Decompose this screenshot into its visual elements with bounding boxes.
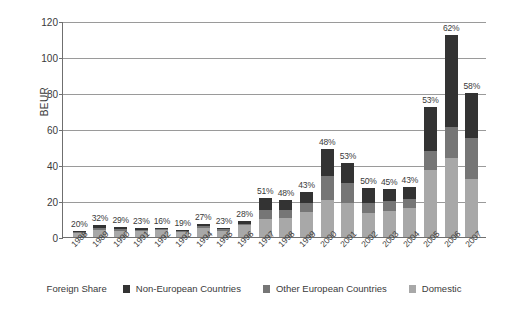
bar-slot: 28% xyxy=(234,22,255,237)
bar-slot: 48% xyxy=(276,22,297,237)
legend-swatch xyxy=(263,285,270,293)
bar-value-label: 32% xyxy=(92,213,108,223)
x-label-slot: 1996 xyxy=(234,240,255,282)
bar-value-label: 53% xyxy=(340,151,356,161)
bar-value-label: 43% xyxy=(402,175,418,185)
stacked-bar[interactable] xyxy=(341,163,354,237)
bar-slot: 16% xyxy=(152,22,173,237)
x-label-slot: 1994 xyxy=(192,240,213,282)
y-axis-tick-label: 20 xyxy=(47,197,58,208)
bar-segment-non-european xyxy=(259,198,272,210)
x-label-slot: 1998 xyxy=(275,240,296,282)
bar-value-label: 48% xyxy=(319,137,335,147)
x-label-slot: 1989 xyxy=(89,240,110,282)
x-axis-tick-labels: 1988198919901991199219931994199519961997… xyxy=(62,240,486,282)
x-label-slot: 2004 xyxy=(399,240,420,282)
legend-lead-label: Foreign Share xyxy=(47,283,107,294)
bar-segment-non-european xyxy=(321,149,334,176)
bar-slot: 53% xyxy=(338,22,359,237)
x-label-slot: 1991 xyxy=(130,240,151,282)
bar-value-label: 48% xyxy=(278,188,294,198)
bar-segment-other-european xyxy=(300,203,313,212)
bar-slot: 62% xyxy=(441,22,462,237)
bar-segment-other-european xyxy=(403,199,416,208)
bar-slot: 23% xyxy=(131,22,152,237)
bar-segment-other-european xyxy=(424,151,437,171)
bar-segment-other-european xyxy=(321,176,334,200)
x-label-slot: 1992 xyxy=(151,240,172,282)
legend-label: Other European Countries xyxy=(276,283,387,294)
x-label-slot: 2000 xyxy=(316,240,337,282)
y-axis-tick-label: 0 xyxy=(52,233,58,244)
x-label-slot: 2007 xyxy=(461,240,482,282)
bar-value-label: 28% xyxy=(236,209,252,219)
bar-segment-non-european xyxy=(445,35,458,127)
bar-slot: 23% xyxy=(214,22,235,237)
bar-value-label: 29% xyxy=(112,215,128,225)
bar-value-label: 23% xyxy=(133,216,149,226)
bar-value-label: 43% xyxy=(298,180,314,190)
x-label-slot: 2003 xyxy=(379,240,400,282)
bar-slot: 58% xyxy=(461,22,482,237)
bar-value-label: 23% xyxy=(216,216,232,226)
legend-item[interactable]: Domestic xyxy=(409,283,462,294)
stacked-bar[interactable] xyxy=(465,93,478,237)
bar-slot: 43% xyxy=(400,22,421,237)
bar-segment-domestic xyxy=(445,158,458,237)
legend-label: Non-European Countries xyxy=(136,283,241,294)
bar-slot: 50% xyxy=(358,22,379,237)
x-label-slot: 1997 xyxy=(254,240,275,282)
stacked-bar[interactable] xyxy=(445,35,458,237)
y-axis-tick-label: 40 xyxy=(47,161,58,172)
bar-slot: 20% xyxy=(69,22,90,237)
stacked-bar[interactable] xyxy=(321,149,334,237)
legend-swatch xyxy=(123,285,130,293)
x-label-slot: 2006 xyxy=(441,240,462,282)
plot-area: 020406080100120 20%32%29%23%16%19%27%23%… xyxy=(62,22,486,238)
bar-segment-non-european xyxy=(383,189,396,201)
bar-segment-non-european xyxy=(341,163,354,183)
bar-value-label: 45% xyxy=(381,177,397,187)
bar-segment-domestic xyxy=(424,170,437,237)
legend-item[interactable]: Other European Countries xyxy=(263,283,387,294)
x-label-slot: 1988 xyxy=(68,240,89,282)
y-axis-tick-label: 120 xyxy=(41,17,58,28)
bar-segment-non-european xyxy=(279,200,292,210)
bar-segment-non-european xyxy=(300,192,313,203)
bar-segment-non-european xyxy=(403,187,416,200)
bar-segment-other-european xyxy=(383,201,396,211)
x-label-slot: 1999 xyxy=(296,240,317,282)
y-axis-tickmark xyxy=(59,238,63,239)
x-label-slot: 1990 xyxy=(109,240,130,282)
stacked-bar[interactable] xyxy=(424,107,437,237)
legend-item[interactable]: Non-European Countries xyxy=(123,283,241,294)
legend-label: Domestic xyxy=(422,283,462,294)
chart-legend: Foreign Share Non-European CountriesOthe… xyxy=(0,283,508,294)
y-axis-tick-label: 100 xyxy=(41,53,58,64)
bar-slot: 53% xyxy=(420,22,441,237)
bar-value-label: 27% xyxy=(195,212,211,222)
bar-segment-other-european xyxy=(341,183,354,203)
x-label-slot: 2002 xyxy=(358,240,379,282)
x-label-slot: 2001 xyxy=(337,240,358,282)
bar-value-label: 50% xyxy=(360,176,376,186)
bar-slot: 29% xyxy=(110,22,131,237)
bar-slot: 48% xyxy=(317,22,338,237)
y-axis-tick-label: 60 xyxy=(47,125,58,136)
bar-slot: 32% xyxy=(90,22,111,237)
bar-segment-other-european xyxy=(259,210,272,219)
legend-swatch xyxy=(409,285,416,293)
bar-value-label: 20% xyxy=(71,219,87,229)
bar-slot: 27% xyxy=(193,22,214,237)
x-label-slot: 2005 xyxy=(420,240,441,282)
legend-entry-group: Non-European CountriesOther European Cou… xyxy=(123,283,462,294)
bar-slot: 45% xyxy=(379,22,400,237)
bar-value-label: 19% xyxy=(174,218,190,228)
bar-value-label: 58% xyxy=(464,81,480,91)
bar-group: 20%32%29%23%16%19%27%23%28%51%48%43%48%5… xyxy=(63,22,486,237)
bar-segment-other-european xyxy=(445,127,458,158)
x-label-slot: 1993 xyxy=(172,240,193,282)
bar-value-label: 53% xyxy=(422,95,438,105)
stacked-bar-chart: BEUR 020406080100120 20%32%29%23%16%19%2… xyxy=(0,0,508,309)
bar-value-label: 62% xyxy=(443,23,459,33)
